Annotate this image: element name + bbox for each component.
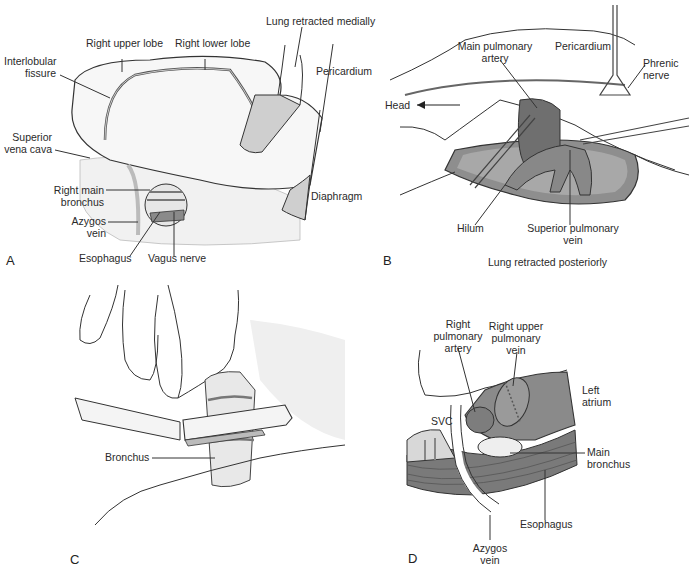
label-esophagus-d: Esophagus [520,518,573,530]
panel-letter-c: C [70,552,79,567]
label-bronchus: Bronchus [105,451,149,463]
label-superior-pulmonary-vein: Superior pulmonary vein [525,222,621,246]
label-svc: SVC [431,415,453,427]
label-azygos-vein-a: Azygos vein [50,215,106,239]
label-esophagus-a: Esophagus [79,252,132,264]
label-hilum: Hilum [457,222,484,234]
caption-lung-retracted-posteriorly: Lung retracted posteriorly [488,256,607,268]
label-left-atrium: Left atrium [582,384,611,408]
label-right-lower-lobe: Right lower lobe [175,37,250,49]
panel-d: Right pulmonary artery Right upper pulmo… [345,290,689,573]
label-pericardium-b: Pericardium [555,40,611,52]
label-superior-vena-cava: Superior vena cava [4,131,52,155]
panel-letter-b: B [383,253,392,268]
panel-b: Main pulmonary artery Pericardium Phreni… [345,0,689,290]
label-right-main-bronchus: Right main bronchus [40,184,104,208]
label-right-upper-pulmonary-vein: Right upper pulmonary vein [485,320,547,356]
panel-a: Right upper lobe Right lower lobe Lung r… [0,0,345,280]
bronchus-stapler-illustration [0,280,345,573]
label-head: Head [385,99,410,111]
label-interlobular-fissure: Interlobular fissure [4,55,56,79]
panel-letter-a: A [6,253,15,268]
panel-c: Bronchus C [0,280,345,573]
label-right-upper-lobe: Right upper lobe [86,37,163,49]
label-main-bronchus: Main bronchus [587,446,630,470]
label-right-pulmonary-artery: Right pulmonary artery [430,318,486,354]
panel-letter-d: D [408,551,417,566]
label-vagus-nerve: Vagus nerve [148,252,206,264]
label-azygos-vein-d: Azygos vein [468,542,512,566]
label-main-pulmonary-artery: Main pulmonary artery [455,40,535,64]
label-phrenic-nerve: Phrenic nerve [643,57,679,81]
